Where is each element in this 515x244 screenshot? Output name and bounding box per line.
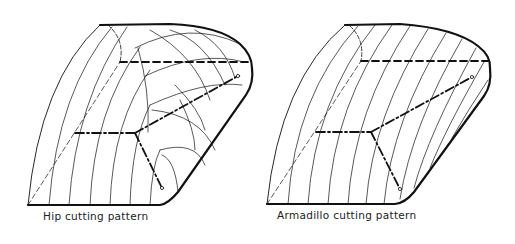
armadillo-cutting-pattern-figure: [267, 24, 490, 204]
hip-axis-down: [135, 133, 162, 188]
hip-caption: Hip cutting pattern: [43, 210, 148, 222]
armadillo-outline-left: [267, 25, 345, 204]
hip-cutting-pattern-figure: [28, 24, 252, 205]
armadillo-node-end-upper: [470, 75, 473, 78]
armadillo-caption: Armadillo cutting pattern: [277, 209, 416, 221]
armadillo-axis-down: [371, 132, 400, 189]
armadillo-node-end-lower: [398, 187, 401, 190]
hip-outline-left: [28, 25, 100, 205]
hip-node-end-lower: [160, 186, 163, 189]
diagram-canvas: [0, 0, 515, 244]
hip-outline-bottom: [28, 68, 252, 205]
armadillo-axis-upper-right: [371, 77, 472, 132]
hip-node-end-upper: [236, 74, 239, 77]
